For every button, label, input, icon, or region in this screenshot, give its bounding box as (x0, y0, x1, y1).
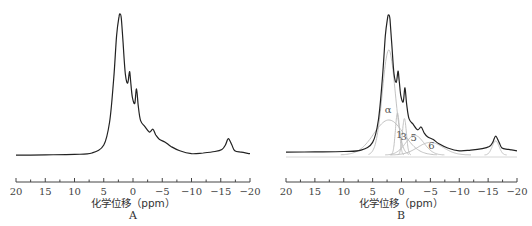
panel-label-b: B (397, 209, 405, 222)
x-axis-label-a: 化学位移（ppm） (91, 195, 175, 210)
x-tick-label: −20 (506, 186, 527, 197)
x-tick-label: 20 (280, 186, 293, 197)
x-tick-label: −15 (210, 186, 231, 197)
component-16-curve (485, 141, 507, 155)
x-tick-label: −15 (478, 186, 499, 197)
panel-a: 20151050−5−10−15−20 化学位移（ppm） A (0, 0, 266, 226)
x-tick-label: 15 (39, 186, 52, 197)
x-tick-label: −10 (181, 186, 202, 197)
component-label: 5 (410, 132, 416, 143)
x-tick-label: 15 (309, 186, 322, 197)
panel-b: 20151050−5−10−15−20α1356 化学位移（ppm） B (266, 0, 532, 226)
component-label: 6 (428, 140, 434, 151)
component-label: 3 (401, 131, 407, 142)
x-axis-label-b: 化学位移（ppm） (359, 195, 443, 210)
spectrum-plot-b: 20151050−5−10−15−20α1356 (266, 0, 532, 226)
component-label: α (385, 104, 392, 115)
x-tick-label: −20 (239, 186, 260, 197)
panel-label-a: A (129, 209, 137, 222)
x-tick-label: 10 (68, 186, 81, 197)
component-alpha-curve (341, 120, 437, 155)
x-tick-label: 20 (10, 186, 23, 197)
spectrum-plot-a: 20151050−5−10−15−20 (0, 0, 266, 226)
spectrum-line (16, 14, 250, 155)
x-tick-label: 10 (337, 186, 350, 197)
x-tick-label: −10 (449, 186, 470, 197)
